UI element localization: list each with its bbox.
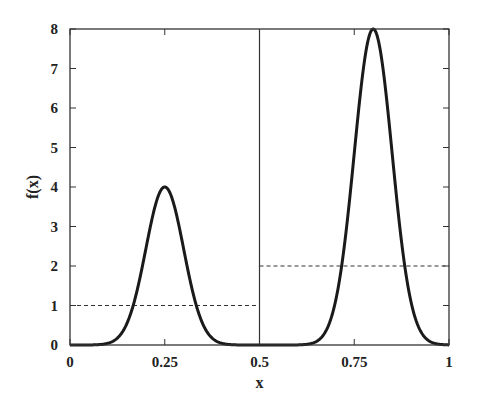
y-tick-label: 0 bbox=[51, 337, 59, 353]
y-axis-label: f(x) bbox=[24, 175, 42, 199]
x-tick-label: 0.25 bbox=[152, 354, 178, 370]
y-tick-label: 1 bbox=[51, 298, 59, 314]
chart: 00.250.50.751012345678xf(x) bbox=[0, 0, 477, 401]
y-tick-label: 4 bbox=[51, 179, 59, 195]
x-tick-label: 1 bbox=[445, 354, 453, 370]
y-tick-label: 2 bbox=[51, 258, 59, 274]
x-tick-label: 0 bbox=[66, 354, 74, 370]
y-tick-label: 7 bbox=[51, 61, 59, 77]
y-tick-label: 6 bbox=[51, 100, 59, 116]
x-tick-label: 0.75 bbox=[341, 354, 367, 370]
x-axis-label: x bbox=[256, 374, 264, 391]
y-tick-label: 8 bbox=[51, 21, 59, 37]
y-tick-label: 3 bbox=[51, 219, 59, 235]
x-tick-label: 0.5 bbox=[250, 354, 269, 370]
y-tick-label: 5 bbox=[51, 140, 59, 156]
